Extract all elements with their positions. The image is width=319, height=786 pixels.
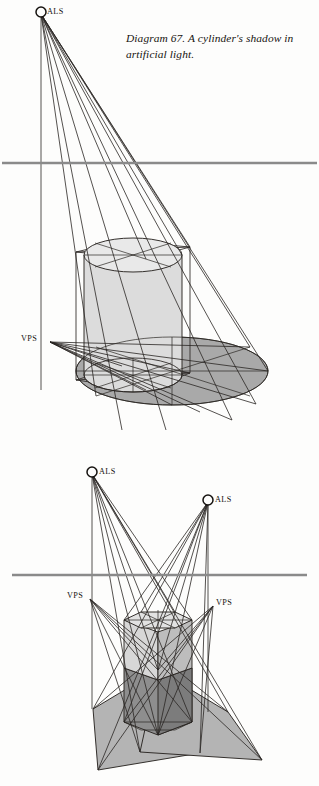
figure-page: Diagram 67. A cylinder's shadow in artif… bbox=[0, 0, 319, 786]
bottom-als-label-left: ALS bbox=[99, 467, 116, 476]
top-als-label: ALS bbox=[47, 7, 64, 16]
bottom-als-marker-left bbox=[87, 467, 97, 477]
figure-caption: Diagram 67. A cylinder's shadow in artif… bbox=[126, 31, 306, 62]
bottom-vps-label-left: VPS bbox=[67, 591, 83, 600]
bottom-als-marker-right bbox=[203, 495, 213, 505]
top-diagram bbox=[2, 7, 317, 430]
top-als-marker bbox=[36, 7, 46, 17]
bottom-vps-label-right: VPS bbox=[216, 598, 232, 607]
top-vps-label: VPS bbox=[21, 334, 37, 343]
diagram-canvas bbox=[0, 0, 319, 786]
bottom-diagram bbox=[12, 467, 307, 770]
bottom-als-label-right: ALS bbox=[215, 495, 232, 504]
